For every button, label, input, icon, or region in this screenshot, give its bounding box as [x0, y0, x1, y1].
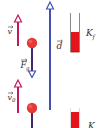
svg-text:K: K [87, 121, 96, 128]
velocity-arrow-v0 [15, 80, 22, 113]
ball-lower [27, 103, 37, 113]
svg-text:d: d [57, 41, 63, 51]
displacement-label: d [57, 40, 63, 51]
kinetic-energy-bar-initial [71, 108, 80, 128]
gravity-label: F g [20, 59, 31, 72]
svg-text:v: v [8, 27, 13, 36]
svg-text:g: g [26, 65, 30, 72]
velocity-label-v0: v 0 [8, 92, 17, 103]
kinetic-energy-label-initial: K [87, 121, 96, 128]
ball-upper [27, 38, 37, 48]
kinetic-energy-bar-final [71, 13, 80, 52]
kinetic-energy-label-final: K f [85, 28, 97, 41]
velocity-label-v: v [8, 26, 14, 36]
svg-text:0: 0 [12, 97, 16, 103]
svg-text:f: f [92, 33, 97, 41]
velocity-arrow-v [15, 15, 22, 46]
physics-diagram: d v F g v 0 [0, 0, 107, 128]
displacement-arrow [47, 2, 54, 110]
gravity-arrow [29, 46, 36, 78]
